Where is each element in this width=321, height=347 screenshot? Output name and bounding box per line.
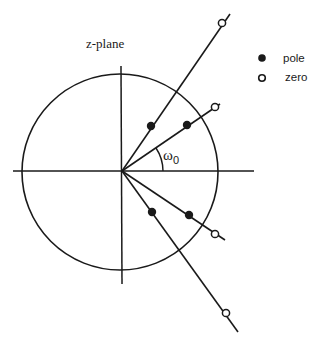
radial-line-upper-outer <box>122 14 230 171</box>
legend-zero-icon <box>259 75 266 82</box>
angle-label: ω0 <box>163 147 179 166</box>
radial-line-lower-inner <box>122 171 225 240</box>
zero-marker <box>211 103 218 110</box>
radial-line-lower-outer <box>122 171 238 332</box>
plane-title: z-plane <box>86 36 124 51</box>
unit-circle <box>22 74 218 270</box>
legend: pole zero <box>258 52 307 83</box>
pole-marker <box>148 208 156 216</box>
zero-marker <box>211 230 218 237</box>
legend-zero-label: zero <box>285 71 307 83</box>
imaginary-axis <box>121 66 122 284</box>
angle-arc <box>156 148 163 171</box>
zero-marker <box>222 309 229 316</box>
legend-pole-icon <box>258 54 266 62</box>
zero-marker <box>218 19 225 26</box>
legend-pole-label: pole <box>283 52 305 64</box>
pole-marker <box>185 211 193 219</box>
pole-marker <box>183 121 191 129</box>
pole-marker <box>147 122 155 130</box>
z-plane-diagram: z-plane ω0 pole zero <box>0 0 321 347</box>
